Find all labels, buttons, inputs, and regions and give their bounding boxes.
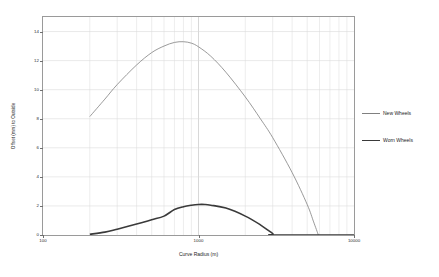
legend-line-icon [362, 113, 380, 114]
y-tick-label: 12 [34, 58, 39, 62]
y-tick-label: 10 [34, 87, 39, 91]
y-tick-mark [40, 61, 43, 62]
y-tick-label: 8 [37, 117, 39, 121]
legend-label: Worn Wheels [383, 138, 413, 143]
x-axis-title: Curve Radius (m) [42, 252, 355, 257]
y-tick-mark [40, 90, 43, 91]
y-tick-label: 14 [34, 29, 39, 33]
chart-figure: 02468101214 100100010000 Curve Radius (m… [0, 0, 439, 277]
series-line-1 [90, 204, 354, 235]
x-tick-label: 100 [39, 239, 46, 243]
x-tick-mark [43, 235, 44, 238]
y-tick-mark [40, 148, 43, 149]
chart-legend: New WheelsWorn Wheels [362, 108, 437, 162]
x-tick-mark [199, 235, 200, 238]
legend-entry[interactable]: Worn Wheels [362, 135, 437, 145]
y-tick-mark [40, 177, 43, 178]
minor-gridlines-x [90, 17, 347, 235]
y-tick-mark [40, 119, 43, 120]
y-tick-label: 2 [37, 204, 39, 208]
chart-svg [43, 17, 354, 235]
y-tick-mark [40, 206, 43, 207]
y-tick-label: 0 [37, 233, 39, 237]
x-tick-label: 1000 [194, 239, 204, 243]
y-tick-label: 6 [37, 146, 39, 150]
y-axis-title: Offset (mm) to Outside [12, 103, 17, 149]
legend-label: New Wheels [383, 111, 411, 116]
y-tick-mark [40, 32, 43, 33]
legend-entry[interactable]: New Wheels [362, 108, 437, 118]
x-tick-mark [354, 235, 355, 238]
y-tick-label: 4 [37, 175, 39, 179]
legend-line-icon [362, 140, 380, 141]
plot-area: 02468101214 100100010000 [42, 16, 355, 236]
x-tick-label: 10000 [348, 239, 360, 243]
